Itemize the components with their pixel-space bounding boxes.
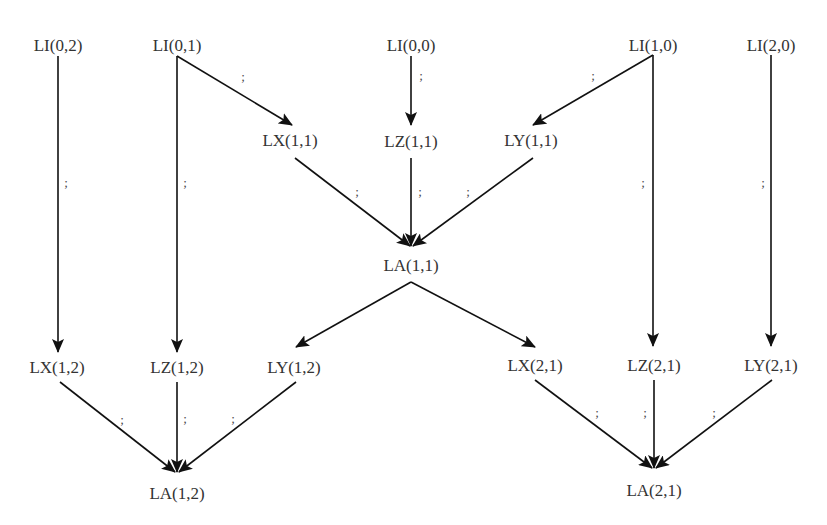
edge-lx21-to-la21 [535,380,652,468]
node-li02: LI(0,2) [34,36,83,56]
edge-label: ; [591,69,595,83]
node-ly12: LY(1,2) [267,358,321,378]
node-lz21: LZ(2,1) [627,356,680,376]
edge-label: ; [761,176,765,190]
edge-ly12-to-la12 [179,382,296,472]
node-li10: LI(1,0) [629,36,678,56]
node-la11: LA(1,1) [383,256,438,276]
edge-lx11-to-la11 [295,158,410,246]
edge-label: ; [231,412,235,426]
node-la21: LA(2,1) [626,481,681,501]
edge-li10-to-ly11 [533,55,653,125]
edge-lx12-to-la12 [60,382,175,472]
edge-la11-to-ly12 [296,282,411,347]
edge-label: ; [183,176,187,190]
node-ly21: LY(2,1) [744,356,798,376]
diagram-canvas: ;;;;;;;;;;;;;;;;LI(0,2)LI(0,1)LI(0,0)LI(… [0,0,827,525]
node-lx12: LX(1,2) [29,358,84,378]
node-lx21: LX(2,1) [507,356,562,376]
edge-label: ; [418,185,422,199]
node-li20: LI(2,0) [747,36,796,56]
node-la12: LA(1,2) [149,484,204,504]
edge-ly11-to-la11 [413,158,533,246]
node-lz12: LZ(1,2) [150,358,203,378]
edge-label: ; [241,70,245,84]
edge-label: ; [183,412,187,426]
edge-label: ; [419,69,423,83]
edge-label: ; [641,176,645,190]
edge-la11-to-lx21 [411,282,535,347]
edge-ly21-to-la21 [656,380,772,468]
edge-label: ; [643,406,647,420]
node-li01: LI(0,1) [153,36,202,56]
edge-label: ; [64,176,68,190]
edge-li01-to-lx11 [177,56,292,125]
node-lz11: LZ(1,1) [384,132,437,152]
edge-label: ; [595,406,599,420]
edge-label: ; [120,413,124,427]
node-li00: LI(0,0) [387,36,436,56]
edge-label: ; [466,185,470,199]
edge-label: ; [712,406,716,420]
node-lx11: LX(1,1) [262,131,317,151]
edge-label: ; [355,185,359,199]
node-ly11: LY(1,1) [504,131,558,151]
